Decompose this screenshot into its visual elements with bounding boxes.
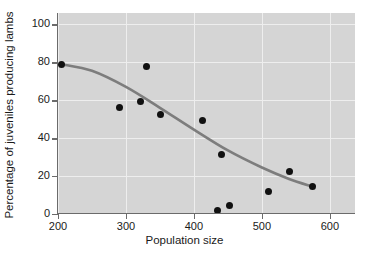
data-point [218,151,225,158]
x-tick-label-300: 300 [106,221,146,232]
y-tick-60 [52,100,57,101]
y-tick-label-80: 80 [18,56,50,67]
x-axis-title: Population size [0,234,369,246]
y-axis-title-wrapper: Percentage of juveniles producing lambs [0,0,18,229]
data-point [309,183,316,190]
x-tick-500 [262,214,263,219]
x-tick-label-200: 200 [38,221,78,232]
x-axis-line [57,213,355,214]
y-tick-label-100: 100 [18,18,50,29]
y-tick-label-40: 40 [18,132,50,143]
data-point [143,63,150,70]
y-tick-80 [52,62,57,63]
x-tick-200 [58,214,59,219]
x-tick-label-500: 500 [242,221,282,232]
plot-area [58,13,355,214]
y-tick-0 [52,214,57,215]
data-point [157,111,164,118]
y-tick-label-0: 0 [18,208,50,219]
y-tick-100 [52,24,57,25]
y-tick-label-60: 60 [18,94,50,105]
chart-figure: 020406080100200300400500600 Population s… [0,0,369,263]
x-tick-400 [194,214,195,219]
y-axis-title: Percentage of juveniles producing lambs [3,11,15,218]
y-tick-label-20: 20 [18,170,50,181]
data-point [265,188,272,195]
x-tick-600 [330,214,331,219]
y-tick-20 [52,176,57,177]
y-axis-line [57,13,58,215]
data-point [116,104,123,111]
data-point [286,168,293,175]
y-tick-40 [52,138,57,139]
data-point [226,202,233,209]
data-point [199,117,206,124]
x-tick-label-600: 600 [310,221,350,232]
data-point [58,61,65,68]
x-tick-300 [126,214,127,219]
x-tick-label-400: 400 [174,221,214,232]
